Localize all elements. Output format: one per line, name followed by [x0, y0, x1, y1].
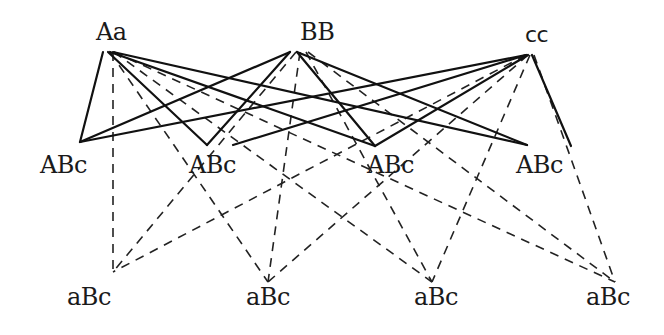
solid-edge — [80, 52, 103, 142]
dashed-edge — [113, 55, 526, 272]
parent-node-aa: Aa — [96, 20, 127, 44]
middle-node-2: ABc — [189, 153, 236, 177]
genetic-cross-diagram: Aa BB cc ABc ABc ABc ABc aBc aBc aBc aBc — [0, 0, 664, 335]
dashed-edge — [308, 52, 615, 282]
middle-node-3: ABc — [367, 153, 414, 177]
middle-node-1: ABc — [40, 153, 87, 177]
bottom-node-3: aBc — [414, 285, 458, 309]
solid-edge — [80, 52, 290, 142]
bottom-node-2: aBc — [246, 285, 290, 309]
bottom-node-4: aBc — [586, 285, 630, 309]
middle-node-4: ABc — [516, 153, 563, 177]
parent-node-bb: BB — [300, 20, 334, 44]
solid-edge — [108, 52, 207, 145]
parent-node-cc: cc — [525, 24, 548, 46]
solid-edge — [532, 55, 571, 146]
bottom-node-1: aBc — [67, 285, 111, 309]
